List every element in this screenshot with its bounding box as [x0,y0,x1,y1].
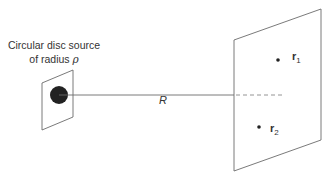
distance-label: R [159,94,167,106]
source-label-line2: of radius ρ [0,52,108,66]
point-r1-subscript: 1 [296,56,300,65]
observation-plane [234,9,321,171]
diagram-canvas [0,0,334,180]
point-r1-label: r1 [292,50,301,65]
radius-symbol: ρ [73,53,79,65]
source-label: Circular disc source of radius ρ [0,38,108,66]
point-r2-subscript: 2 [274,128,278,137]
source-label-prefix: of radius [29,53,72,65]
source-label-line1: Circular disc source [0,38,108,52]
point-r2-dot [257,125,261,129]
point-r2-label: r2 [270,122,279,137]
point-r1-dot [276,58,280,62]
